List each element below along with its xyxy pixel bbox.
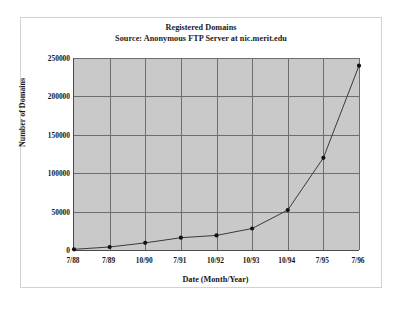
y-tick-label: 100000: [24, 169, 70, 178]
y-axis-ticks: 050000100000150000200000250000: [20, 58, 70, 250]
plot-area: [73, 58, 359, 251]
gridline-vertical: [359, 58, 360, 250]
data-point: [72, 247, 76, 251]
x-tick-label: 7/96: [331, 256, 385, 265]
data-point: [357, 64, 361, 68]
y-tick-label: 150000: [24, 131, 70, 140]
y-tick-label: 200000: [24, 92, 70, 101]
y-tick-label: 50000: [24, 208, 70, 217]
series-line: [74, 66, 359, 250]
chart-title-block: Registered Domains Source: Anonymous FTP…: [0, 22, 402, 44]
x-axis-title: Date (Month/Year): [73, 275, 358, 284]
data-point: [143, 241, 147, 245]
data-point: [286, 208, 290, 212]
data-point: [179, 236, 183, 240]
chart-title: Registered Domains: [0, 22, 402, 33]
data-point: [250, 226, 254, 230]
y-axis-title: Number of Domains: [18, 53, 27, 173]
chart-subtitle: Source: Anonymous FTP Server at nic.meri…: [0, 33, 402, 44]
series-domains: [74, 58, 359, 250]
data-point: [321, 156, 325, 160]
y-tick-label: 0: [24, 246, 70, 255]
data-point: [214, 233, 218, 237]
chart-page: Registered Domains Source: Anonymous FTP…: [0, 0, 402, 312]
x-axis-ticks: 7/887/8910/907/9110/9210/9310/947/957/96: [73, 256, 358, 268]
data-point: [108, 245, 112, 249]
y-tick-label: 250000: [24, 54, 70, 63]
